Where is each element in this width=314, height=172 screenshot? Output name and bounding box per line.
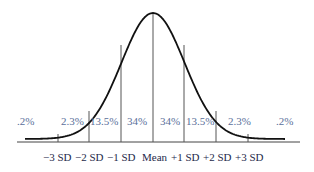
pct-label-2: 13.5% <box>90 115 118 127</box>
pct-label-6: 2.3% <box>228 115 251 127</box>
percentage-labels: .2% 2.3% 13.5% 34% 34% 13.5% 2.3% .2% <box>17 115 293 127</box>
sd-lines <box>58 13 248 142</box>
sd-label-plus2: +2 SD <box>203 151 232 163</box>
sd-label-minus3: −3 SD <box>43 151 72 163</box>
pct-label-0: .2% <box>17 115 34 127</box>
sd-labels: −3 SD −2 SD −1 SD Mean +1 SD +2 SD +3 SD <box>43 151 264 163</box>
pct-label-1: 2.3% <box>61 115 84 127</box>
sd-label-minus1: −1 SD <box>107 151 136 163</box>
sd-label-minus2: −2 SD <box>75 151 104 163</box>
pct-label-3: 34% <box>127 115 147 127</box>
pct-label-4: 34% <box>160 115 180 127</box>
sd-label-plus3: +3 SD <box>235 151 264 163</box>
sd-label-plus1: +1 SD <box>171 151 200 163</box>
pct-label-5: 13.5% <box>186 115 214 127</box>
sd-label-mean: Mean <box>142 151 168 163</box>
normal-distribution-chart: .2% 2.3% 13.5% 34% 34% 13.5% 2.3% .2% −3… <box>0 0 314 172</box>
pct-label-7: .2% <box>276 115 293 127</box>
